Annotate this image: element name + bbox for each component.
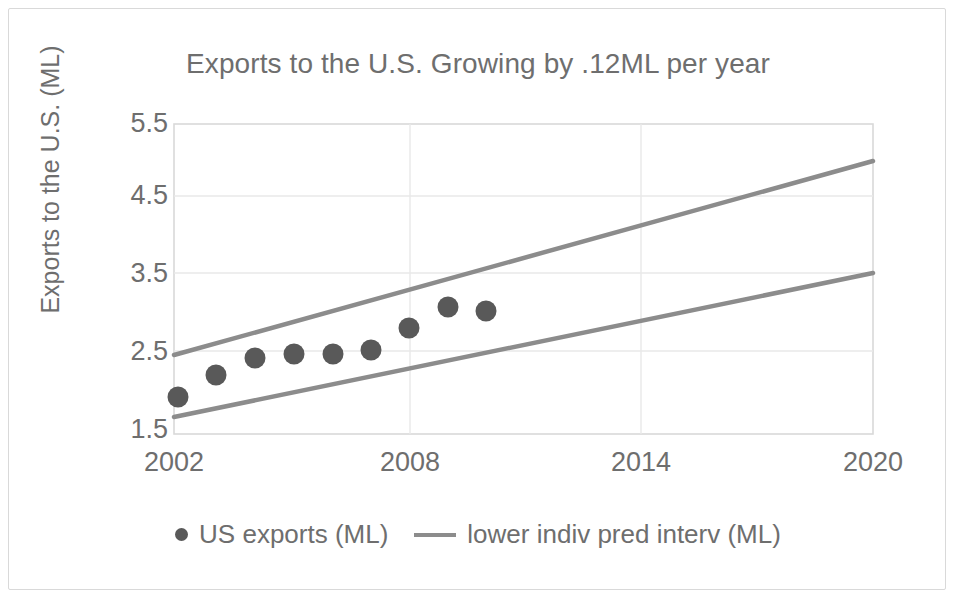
legend-label: US exports (ML) [199, 519, 388, 550]
legend-label: lower indiv pred interv (ML) [467, 519, 781, 550]
x-tick-label: 2008 [340, 449, 480, 476]
x-tick-label: 2014 [571, 449, 711, 476]
chart-legend: US exports (ML) lower indiv pred interv … [0, 519, 956, 550]
legend-item-lower-pred-interval[interactable]: lower indiv pred interv (ML) [414, 519, 781, 550]
x-tick-label: 2020 [803, 449, 943, 476]
legend-dot-icon [175, 528, 188, 541]
legend-line-icon [414, 533, 456, 537]
x-axis-tick-labels: 2002 2008 2014 2020 [0, 0, 956, 600]
chart-container: Exports to the U.S. Growing by .12ML per… [0, 0, 956, 600]
x-tick-label: 2002 [104, 449, 244, 476]
legend-item-us-exports[interactable]: US exports (ML) [175, 519, 388, 550]
